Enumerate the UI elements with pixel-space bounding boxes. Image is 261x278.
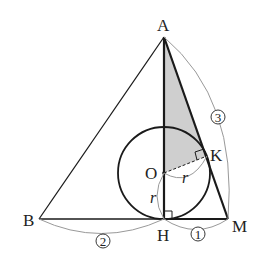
segment-AB	[39, 37, 164, 219]
length-label-BH: 2	[96, 234, 110, 249]
label-O: O	[145, 164, 157, 183]
length-label-AM: 3	[211, 110, 225, 125]
label-A: A	[157, 16, 170, 35]
svg-text:1: 1	[195, 227, 202, 242]
radius-label-OK: r	[182, 169, 189, 186]
label-B: B	[23, 211, 34, 230]
label-M: M	[232, 217, 247, 236]
arc-BH	[39, 219, 164, 234]
svg-text:3: 3	[215, 110, 222, 125]
label-K: K	[210, 146, 223, 165]
geometry-diagram: A B H M O K r r 2 1 3	[0, 0, 261, 278]
label-H: H	[157, 226, 169, 245]
svg-text:2: 2	[100, 234, 107, 249]
radius-label-OH: r	[150, 189, 157, 206]
length-label-HM: 1	[191, 227, 205, 242]
